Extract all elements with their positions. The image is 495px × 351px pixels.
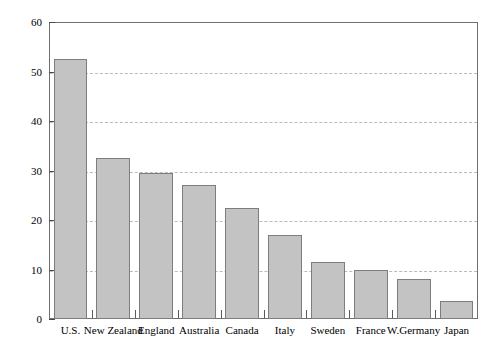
x-axis-label: France [356, 324, 386, 336]
y-tick-label: 30 [4, 165, 42, 177]
x-axis-label: New Zealand [84, 324, 143, 336]
bar[interactable] [268, 235, 302, 319]
x-axis-label: U.S. [61, 324, 81, 336]
x-tick-mark [349, 310, 350, 318]
x-axis-label: Sweden [310, 324, 345, 336]
y-tick-label: 10 [4, 264, 42, 276]
bars-layer [49, 22, 478, 319]
y-tick-label: 50 [4, 66, 42, 78]
x-tick-mark [264, 310, 265, 318]
x-tick-mark [135, 310, 136, 318]
x-axis-label: Australia [179, 324, 219, 336]
bar[interactable] [397, 279, 431, 319]
y-tick-label: 60 [4, 16, 42, 28]
bar[interactable] [354, 270, 388, 320]
bar[interactable] [54, 59, 88, 319]
y-tick-label: 20 [4, 214, 42, 226]
x-axis-label: Italy [275, 324, 295, 336]
x-axis-label: England [138, 324, 175, 336]
bar[interactable] [225, 208, 259, 319]
bar[interactable] [139, 173, 173, 319]
x-axis-labels: U.S.New ZealandEnglandAustraliaCanadaIta… [49, 324, 478, 344]
x-tick-mark [178, 310, 179, 318]
y-tick-label: 0 [4, 313, 42, 325]
x-axis-label: Japan [444, 324, 469, 336]
x-axis-label: Canada [226, 324, 259, 336]
bar[interactable] [96, 158, 130, 319]
bar-chart: Births per 1,000 Mothers Under 20 010203… [0, 0, 495, 351]
x-tick-mark [306, 310, 307, 318]
x-tick-mark [92, 310, 93, 318]
y-tick-label: 40 [4, 115, 42, 127]
bar[interactable] [311, 262, 345, 319]
y-tick-mark [49, 319, 55, 320]
x-tick-mark [435, 310, 436, 318]
x-axis-label: W.Germany [387, 324, 440, 336]
x-tick-mark [221, 310, 222, 318]
bar[interactable] [182, 185, 216, 319]
x-tick-mark [392, 310, 393, 318]
bar[interactable] [440, 301, 474, 319]
